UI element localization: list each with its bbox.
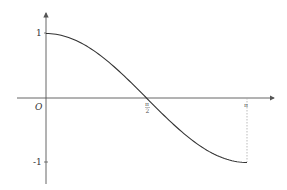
x-label-half-pi-num: π (145, 100, 149, 107)
y-label-neg1: -1 (33, 157, 42, 167)
y-label-1: 1 (36, 28, 42, 38)
x-label-half-pi-den: 2 (146, 107, 150, 114)
cosine-plot: 1 -1 O π 2 π (0, 0, 287, 190)
origin-label: O (35, 102, 43, 112)
x-label-pi: π (244, 101, 248, 108)
